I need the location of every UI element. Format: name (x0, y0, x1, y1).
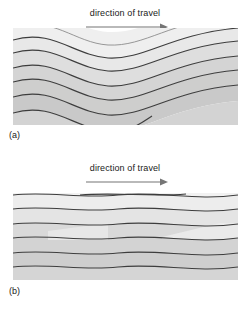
direction-of-travel-label-a: direction of travel (0, 8, 250, 18)
strata-block-b (0, 193, 250, 293)
panel-a: direction of travel (0, 0, 250, 155)
direction-arrow-b (0, 174, 250, 186)
panel-b: direction of travel (0, 155, 250, 310)
direction-of-travel-label-b: direction of travel (0, 163, 250, 173)
strata-block-a (0, 28, 250, 133)
strata-layers-a (13, 28, 238, 133)
panel-tag-a: (a) (9, 130, 20, 140)
figure-container: direction of travel (0, 0, 250, 310)
panel-tag-b: (b) (9, 286, 20, 296)
strata-band (13, 266, 238, 293)
strata-layers-b (13, 193, 238, 293)
right-arrow-icon (0, 176, 250, 188)
